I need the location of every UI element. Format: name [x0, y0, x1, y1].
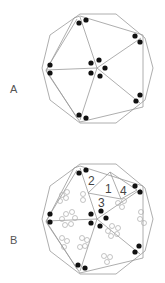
- figure-b: [42, 164, 153, 274]
- region-label-4: 4: [120, 184, 127, 198]
- region-label-3: 3: [98, 196, 105, 210]
- region-label-1: 1: [105, 182, 112, 196]
- figure-a: [42, 14, 153, 123]
- inner-triangle-a: [46, 16, 143, 122]
- region-label-2: 2: [88, 174, 95, 188]
- diagram-canvas: [0, 0, 165, 283]
